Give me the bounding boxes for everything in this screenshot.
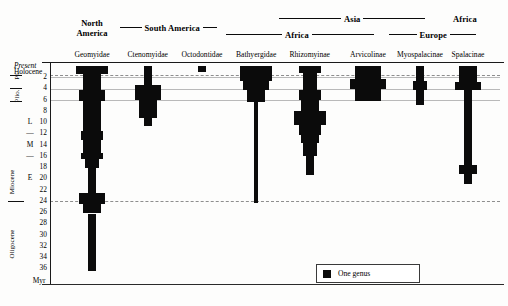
axis-tick-36: 36 <box>20 263 47 272</box>
gridline-4myr <box>50 89 500 90</box>
region-label-text: Africa <box>285 30 309 40</box>
column-header-octodontidae: Octodontidae <box>182 50 223 59</box>
figure-root: AsiaAfrica AfricaEurope South America No… <box>0 0 508 306</box>
epoch-sep-plio-miocene <box>10 101 22 102</box>
spindle-segment <box>299 125 321 136</box>
epoch-sep-holocene-pl <box>10 75 22 76</box>
spindle-segment <box>83 74 101 90</box>
column-header-ctenomyidae: Ctenomyidae <box>128 50 169 59</box>
region-label-text: Africa <box>453 14 477 24</box>
spindle-segment <box>299 90 321 100</box>
region-rule-right <box>363 18 425 19</box>
column-header-myospalacinae: Myospalacinae <box>397 50 443 59</box>
spindle-segment <box>464 90 473 165</box>
spindle-segment <box>83 101 101 131</box>
spindle-segment <box>303 73 316 89</box>
miocene-sub-rule-1: — <box>24 128 36 137</box>
spindle-segment <box>88 168 97 193</box>
miocene-sub-l: L <box>24 117 36 126</box>
y-axis-line <box>50 63 51 284</box>
axis-tick-26: 26 <box>20 207 47 216</box>
spindle-segment <box>299 66 321 73</box>
spindle-segment <box>240 66 271 81</box>
spindle-segment <box>83 140 101 152</box>
spindle-segment <box>301 135 319 142</box>
axis-tick-24: 24 <box>20 196 47 205</box>
axis-epoch-oligocene: Oligocene <box>8 216 16 272</box>
spindle-segment <box>350 79 386 89</box>
spindle-segment <box>81 153 103 160</box>
region-rule-left <box>279 18 341 19</box>
region-label-south america: South America <box>117 22 220 33</box>
spindle-segment <box>139 100 157 117</box>
spindle-segment <box>416 90 425 105</box>
axis-tick-18: 18 <box>20 162 47 171</box>
spindle-segment <box>144 66 153 85</box>
spindle-segment <box>413 81 426 91</box>
region-rule-left <box>226 34 282 35</box>
spindle-segment <box>243 81 270 91</box>
spindle-segment <box>303 143 316 157</box>
region-label-north-america: North America <box>66 19 118 38</box>
region-label-north-america-line1: North <box>81 18 103 28</box>
region-rule-left <box>120 27 142 28</box>
spindle-segment <box>135 85 162 101</box>
axis-tick-28: 28 <box>20 218 47 227</box>
region-label-africa: Africa <box>223 29 377 40</box>
spindle-segment <box>85 159 98 168</box>
axis-epoch-pl: Pl. <box>13 69 21 83</box>
column-header-arvicolinae: Arvicolinae <box>350 50 386 59</box>
region-header-row-south-america: South America <box>0 0 508 12</box>
spindle-segment <box>355 66 382 79</box>
legend: One genus <box>316 264 420 283</box>
axis-tick-4: 4 <box>20 83 47 92</box>
column-header-rhizomyinae: Rhizomyinae <box>290 50 331 59</box>
column-header-bathyergidae: Bathyergidae <box>236 50 276 59</box>
spindle-segment <box>88 214 97 271</box>
region-label-text: Europe <box>420 30 447 40</box>
spindle-segment <box>464 174 473 184</box>
legend-label: One genus <box>338 269 370 278</box>
spindle-segment <box>198 66 207 72</box>
epoch-sep-miocene-oligocene <box>8 201 24 202</box>
column-header-geomyidae: Geomyidae <box>75 50 110 59</box>
gridline-24myr <box>50 201 500 202</box>
plot-bottom-border <box>42 284 504 285</box>
region-rule-right <box>312 34 374 35</box>
axis-tick-2: 2 <box>20 72 47 81</box>
gridline-2myr <box>50 77 500 78</box>
spindle-segment <box>306 156 315 175</box>
region-rule-right <box>450 34 476 35</box>
spindle-segment <box>247 90 265 102</box>
spindle-segment <box>355 89 382 101</box>
legend-swatch-icon <box>323 270 331 278</box>
axis-tick-22: 22 <box>20 185 47 194</box>
region-label-europe: Europe <box>386 29 479 40</box>
gridline-6myr <box>50 100 500 101</box>
region-rule-right <box>203 27 217 28</box>
axis-epoch-miocene: Miocene <box>8 154 16 210</box>
spindle-segment <box>294 111 325 125</box>
spindle-segment <box>144 118 153 126</box>
region-label-north-america-line2: America <box>76 28 107 38</box>
spindle-segment <box>76 66 107 74</box>
region-label-text: South America <box>145 23 200 33</box>
spindle-segment <box>455 82 482 90</box>
plot-top-border <box>42 62 504 63</box>
spindle-segment <box>83 204 101 213</box>
spindle-segment <box>459 66 477 82</box>
spindle-segment <box>79 193 106 204</box>
spindle-segment <box>254 102 258 203</box>
spindle-segment <box>459 165 477 174</box>
region-label-asia: Asia <box>276 13 428 24</box>
axis-tick-6: 6 <box>20 95 47 104</box>
region-rule-left <box>389 34 417 35</box>
spindle-segment <box>79 90 106 102</box>
epoch-sep-pl-plio <box>10 88 22 89</box>
axis-tick-8: 8 <box>20 106 47 115</box>
column-header-spalacinae: Spalacinae <box>452 50 485 59</box>
gridline-holocene <box>50 75 500 76</box>
spindle-segment <box>416 66 425 81</box>
axis-tick-34: 34 <box>20 252 47 261</box>
miocene-sub-m: M <box>24 140 36 149</box>
